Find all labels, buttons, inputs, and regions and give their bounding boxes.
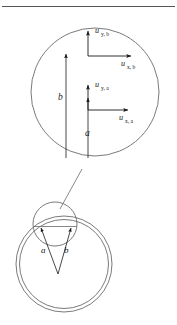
magnifier-leader-line <box>60 169 82 209</box>
uy-a-label: u y, a <box>95 80 109 91</box>
uy-a-label-sub: y, a <box>101 85 109 91</box>
bubble-circle <box>33 202 77 246</box>
ux-b-label-sub: x, b <box>127 64 136 70</box>
figure-root: b a u y, b u x, b u y, a u x, a <box>0 0 177 325</box>
b-magnitude-label: b <box>58 92 63 102</box>
vector-decomposition-diagram: b a u y, b u x, b u y, a u x, a <box>0 0 177 325</box>
ux-a-label-sub: x, a <box>125 118 134 124</box>
uy-b-label: u y, b <box>95 26 109 37</box>
outer-ring-circle <box>16 216 112 312</box>
uy-b-label-base: u <box>95 26 99 35</box>
uy-b-label-sub: y, b <box>101 31 109 37</box>
a-magnitude-label: a <box>85 128 90 138</box>
ux-b-label: u x, b <box>121 59 136 70</box>
ux-a-label: u x, a <box>119 113 134 124</box>
inner-ring-circle <box>20 220 109 309</box>
ux-b-label-base: u <box>121 59 125 68</box>
uy-a-label-base: u <box>95 80 99 89</box>
b-ray-label: b <box>64 245 69 255</box>
magnified-detail-circle <box>31 28 159 156</box>
a-ray-label: a <box>41 245 46 255</box>
ux-a-label-base: u <box>119 113 123 122</box>
